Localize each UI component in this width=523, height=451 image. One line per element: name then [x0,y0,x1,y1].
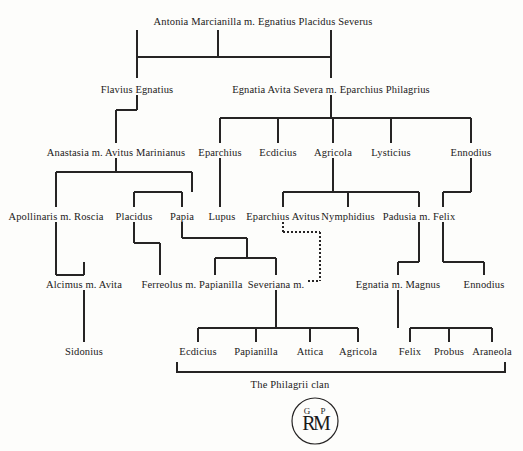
tree-node: Probus [434,346,464,358]
tree-node: Egnatia m. Magnus [356,279,441,291]
tree-node: Lupus [209,211,236,223]
tree-node: Sidonius [65,346,103,358]
tree-node: Ferreolus m. Papianilla [141,279,242,291]
svg-text:G: G [304,406,311,416]
tree-node: Eparchius Avitus [246,211,320,223]
tree-node: Papianilla [234,346,278,358]
tree-node: Anastasia m. Avitus Marinianus [47,147,185,159]
tree-node: Alcimus m. Avita [46,279,122,291]
tree-node: Placidus [116,211,153,223]
svg-text:P: P [320,406,325,416]
chart-caption: The Philagrii clan [251,379,330,390]
svg-text:R: R [302,412,316,434]
tree-node: Araneola [472,346,512,358]
tree-node: Ennodius [464,279,505,291]
clan-bracket [177,362,505,372]
tree-node: Attica [297,346,324,358]
tree-node: Severiana m. [248,279,305,291]
tree-node: Antonia Marcianilla m. Egnatius Placidus… [154,16,373,28]
tree-node: Papia [170,211,194,223]
tree-node: Agricola [314,147,352,159]
tree-node: Egnatia Avita Severa m. Eparchius Philag… [232,84,430,96]
svg-text:M: M [313,412,331,434]
tree-node: Felix [399,346,421,358]
tree-node: Apollinaris m. Roscia [8,211,103,223]
publisher-logo-icon: G P R M [292,398,338,444]
tree-node: Agricola [339,346,377,358]
tree-node: Ennodius [451,147,492,159]
tree-node: Flavius Egnatius [101,84,174,96]
tree-node: Padusia m. Felix [383,211,456,223]
tree-node: Ecdicius [179,346,216,358]
tree-node: Ecdicius [259,147,296,159]
tree-node: Eparchius [198,147,241,159]
family-tree-figure: G P R M Antonia Marcianilla m. Egnatius … [0,0,523,451]
tree-node: Lysticius [371,147,410,159]
tree-node: Nymphidius [321,211,374,223]
